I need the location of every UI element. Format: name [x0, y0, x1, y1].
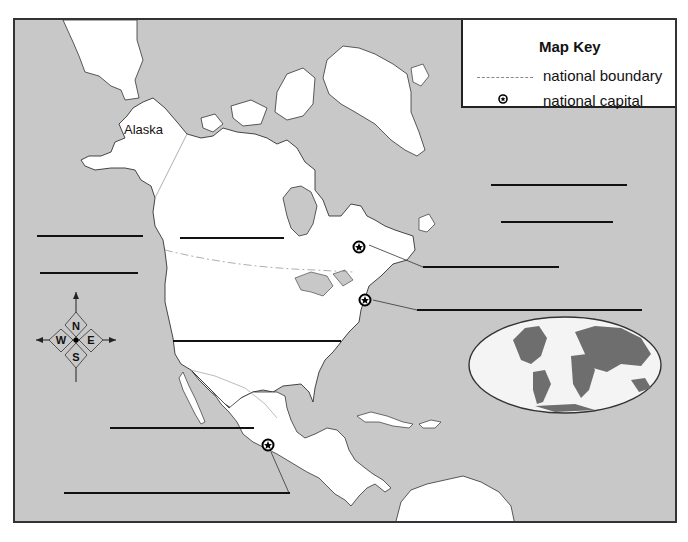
capital-star-icon: [360, 295, 371, 306]
answer-blank[interactable]: [417, 309, 642, 311]
map-key: Map Key national boundary national capit…: [461, 18, 677, 108]
map-key-title: Map Key: [539, 38, 601, 55]
answer-blank[interactable]: [501, 221, 613, 223]
answer-blank[interactable]: [173, 340, 341, 342]
compass-rose-icon: N S W E: [36, 292, 116, 382]
answer-blank[interactable]: [423, 266, 559, 268]
answer-blank[interactable]: [64, 492, 290, 494]
compass-south: S: [72, 351, 79, 363]
answer-blank[interactable]: [110, 427, 254, 429]
national-boundary-icon: [477, 77, 533, 78]
map-frame: Alaska N S W: [13, 18, 677, 523]
compass-east: E: [87, 334, 94, 346]
key-label-capital: national capital: [543, 92, 643, 109]
answer-blank[interactable]: [37, 235, 143, 237]
capital-star-icon: [263, 440, 274, 451]
key-label-boundary: national boundary: [543, 67, 662, 84]
answer-blank[interactable]: [491, 184, 627, 186]
national-capital-icon: [498, 94, 508, 104]
answer-blank[interactable]: [40, 272, 138, 274]
compass-north: N: [72, 320, 80, 332]
compass-west: W: [56, 334, 67, 346]
capital-star-icon: [354, 242, 365, 253]
answer-blank[interactable]: [180, 237, 284, 239]
